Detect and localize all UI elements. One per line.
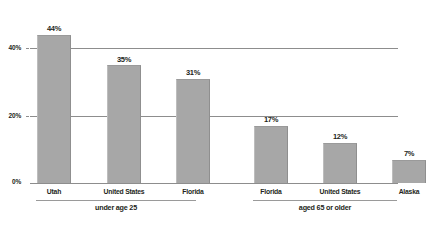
ytick-label-40: 40% — [0, 45, 21, 52]
bar-utah-under25[interactable] — [37, 35, 71, 184]
gridline-20: 20% — [30, 116, 398, 117]
ytick-label-20: 20% — [0, 113, 21, 120]
bar-value-florida-under25: 31% — [170, 69, 216, 77]
category-label-united-states-under25: United States — [88, 189, 160, 196]
bar-value-florida-65plus: 17% — [248, 116, 294, 124]
category-label-florida-under25: Florida — [157, 189, 229, 196]
bar-florida-under25[interactable] — [176, 79, 210, 184]
bar-alaska-65plus[interactable] — [392, 160, 426, 184]
category-label-united-states-65plus: United States — [304, 189, 376, 196]
bar-value-united-states-under25: 35% — [101, 56, 147, 64]
ytick-label-0: 0% — [0, 179, 21, 186]
bar-united-states-65plus[interactable] — [323, 143, 357, 184]
group-rule-under25 — [36, 200, 196, 201]
group-caption-under25: under age 25 — [36, 204, 196, 211]
group-rule-65plus — [253, 200, 397, 201]
gridline-40: 40% — [30, 48, 398, 49]
category-label-alaska-65plus: Alaska — [373, 189, 430, 196]
ytick-mark-20 — [26, 116, 29, 117]
plot-area: 40% 20% 0% 44% 35% 31% 17% 12% 7% — [30, 14, 398, 183]
category-label-utah-under25: Utah — [18, 189, 90, 196]
bar-florida-65plus[interactable] — [254, 126, 288, 184]
ytick-mark-40 — [26, 48, 29, 49]
bar-value-utah-under25: 44% — [31, 25, 77, 33]
bar-united-states-under25[interactable] — [107, 65, 141, 183]
gridline-baseline-0: 0% — [30, 183, 398, 184]
category-label-florida-65plus: Florida — [235, 189, 307, 196]
group-caption-65plus: aged 65 or older — [253, 204, 397, 211]
bar-value-united-states-65plus: 12% — [317, 133, 363, 141]
bar-value-alaska-65plus: 7% — [386, 150, 430, 158]
